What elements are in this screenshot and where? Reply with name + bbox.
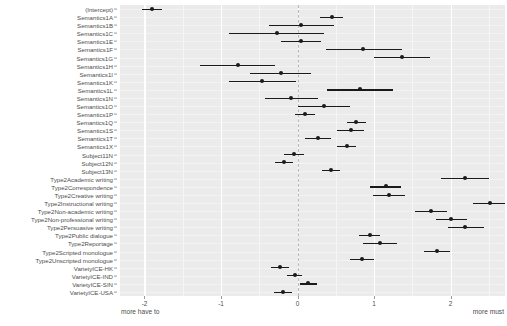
y-axis-tick-mark bbox=[114, 292, 117, 293]
forest-row bbox=[120, 94, 505, 102]
annotation-right: more must bbox=[473, 308, 504, 315]
y-axis-tick-label: Semantics1P bbox=[77, 111, 113, 118]
y-axis-tick-label: Subject12N bbox=[81, 159, 113, 166]
estimate-point bbox=[150, 7, 154, 11]
forest-row bbox=[120, 78, 505, 86]
estimate-point bbox=[306, 281, 310, 285]
estimate-point bbox=[275, 31, 279, 35]
forest-row bbox=[120, 280, 505, 288]
estimate-point bbox=[358, 87, 362, 91]
estimate-point bbox=[329, 168, 333, 172]
forest-row bbox=[120, 248, 505, 256]
y-axis-tick-mark bbox=[114, 243, 117, 244]
forest-row bbox=[120, 159, 505, 167]
x-axis-tick-mark bbox=[221, 296, 222, 299]
y-axis-tick-label: Semantics1L bbox=[78, 86, 113, 93]
y-axis-tick-mark bbox=[114, 235, 117, 236]
y-axis-tick-label: Semantics1C bbox=[77, 30, 113, 37]
estimate-point bbox=[293, 273, 297, 277]
forest-row bbox=[120, 29, 505, 37]
y-axis-tick-label: Semantics1X bbox=[77, 143, 113, 150]
x-axis-tick-mark bbox=[451, 296, 452, 299]
y-axis-tick-label: Semantics1E bbox=[77, 38, 113, 45]
x-axis: -2-1012 bbox=[120, 296, 505, 310]
estimate-point bbox=[435, 249, 439, 253]
x-axis-tick-label: -2 bbox=[142, 300, 148, 307]
y-axis-tick-mark bbox=[114, 203, 117, 204]
y-axis-tick-label: Semantics1F bbox=[77, 46, 113, 53]
y-axis-tick-mark bbox=[114, 73, 117, 74]
estimate-point bbox=[400, 55, 404, 59]
y-axis-tick-label: Type2Reportage bbox=[68, 240, 113, 247]
estimate-point bbox=[449, 217, 453, 221]
forest-row bbox=[120, 118, 505, 126]
plot-panel bbox=[120, 5, 505, 296]
y-axis-tick-mark bbox=[114, 106, 117, 107]
y-axis-tick-mark bbox=[114, 195, 117, 196]
y-axis-tick-mark bbox=[114, 122, 117, 123]
x-axis-tick-label: 1 bbox=[372, 300, 376, 307]
y-axis-tick-mark bbox=[114, 49, 117, 50]
y-axis-tick-label: Semantics1S bbox=[77, 127, 113, 134]
forest-row bbox=[120, 45, 505, 53]
forest-row bbox=[120, 110, 505, 118]
y-axis-tick-mark bbox=[114, 98, 117, 99]
y-axis-tick-label: Semantics1I bbox=[79, 70, 113, 77]
y-axis-tick-label: Semantics1G bbox=[76, 54, 113, 61]
y-axis-tick-label: Semantics1O bbox=[76, 103, 113, 110]
y-axis-tick-mark bbox=[114, 146, 117, 147]
x-axis-tick-mark bbox=[298, 296, 299, 299]
forest-row bbox=[120, 5, 505, 13]
y-axis-tick-label: Type2Unscripted monologue bbox=[35, 256, 113, 263]
forest-row bbox=[120, 207, 505, 215]
estimate-point bbox=[303, 112, 307, 116]
y-axis-tick-mark bbox=[114, 65, 117, 66]
x-axis-tick-mark bbox=[144, 296, 145, 299]
forest-row bbox=[120, 264, 505, 272]
x-axis-tick-label: 0 bbox=[296, 300, 300, 307]
y-axis-tick-mark bbox=[114, 41, 117, 42]
estimate-point bbox=[360, 257, 364, 261]
y-axis-tick-mark bbox=[114, 81, 117, 82]
estimate-point bbox=[488, 201, 492, 205]
estimate-point bbox=[236, 63, 240, 67]
forest-row bbox=[120, 86, 505, 94]
forest-row bbox=[120, 231, 505, 239]
forest-row bbox=[120, 134, 505, 142]
y-axis-tick-mark bbox=[114, 178, 117, 179]
y-axis-tick-label: Type2Instructional writing bbox=[44, 200, 113, 207]
estimate-point bbox=[292, 152, 296, 156]
y-axis-tick-label: Subject13N bbox=[81, 167, 113, 174]
estimate-point bbox=[463, 225, 467, 229]
x-axis-tick-mark bbox=[374, 296, 375, 299]
y-axis-tick-label: VarietyICE-SIN bbox=[72, 280, 113, 287]
estimate-point bbox=[463, 176, 467, 180]
y-axis-tick-label: Type2Persuasive writing bbox=[47, 224, 113, 231]
forest-row bbox=[120, 272, 505, 280]
forest-row bbox=[120, 142, 505, 150]
estimate-point bbox=[378, 241, 382, 245]
y-axis-tick-mark bbox=[114, 9, 117, 10]
estimate-point bbox=[368, 233, 372, 237]
estimate-point bbox=[279, 71, 283, 75]
forest-row bbox=[120, 102, 505, 110]
forest-row bbox=[120, 54, 505, 62]
y-axis-tick-mark bbox=[114, 17, 117, 18]
y-axis-tick-mark bbox=[114, 114, 117, 115]
forest-row bbox=[120, 21, 505, 29]
y-axis-tick-label: Type2Creative writing bbox=[54, 191, 113, 198]
forest-row bbox=[120, 288, 505, 296]
y-axis-tick-label: Type2Correspondence bbox=[51, 183, 113, 190]
estimate-point bbox=[330, 15, 334, 19]
estimate-point bbox=[387, 193, 391, 197]
y-axis-tick-label: VarietyICE-HK bbox=[74, 264, 113, 271]
y-axis-tick-mark bbox=[114, 251, 117, 252]
forest-row bbox=[120, 199, 505, 207]
y-axis-tick-mark bbox=[114, 162, 117, 163]
annotation-left: more have to bbox=[121, 308, 159, 315]
y-axis-tick-mark bbox=[114, 267, 117, 268]
y-axis-tick-label: Type2Non-academic writing bbox=[38, 208, 113, 215]
forest-row bbox=[120, 37, 505, 45]
estimate-point bbox=[299, 39, 303, 43]
estimate-point bbox=[429, 209, 433, 213]
